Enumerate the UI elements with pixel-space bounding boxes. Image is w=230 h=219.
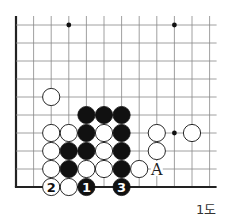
black-stone [78,106,95,123]
white-stone: 2 [43,178,60,195]
move-number-label: 1 [82,180,91,195]
white-stone [60,124,77,141]
move-number-label: 2 [47,180,56,195]
white-stone [43,88,60,105]
diagram-caption: 1도 [196,199,215,218]
white-stone [60,178,77,195]
move-number-label: 3 [117,180,126,195]
black-stone [78,124,95,141]
black-stone [113,106,130,123]
black-stone [60,160,77,177]
black-stone [113,142,130,159]
white-stone [43,142,60,159]
white-stone [148,124,165,141]
white-stone [43,160,60,177]
white-stone [131,160,148,177]
black-stone: 3 [113,178,130,195]
star-point-icon [66,23,71,28]
white-stone [183,124,200,141]
black-stone [95,106,112,123]
white-stone [95,142,112,159]
white-stone [43,124,60,141]
white-stone [95,124,112,141]
star-point-icon [172,23,177,28]
black-stone [113,160,130,177]
markers-layer: A [150,160,163,179]
black-stone: 1 [78,178,95,195]
white-stone [148,142,165,159]
go-board-diagram: 213 A [0,0,230,219]
black-stone [78,142,95,159]
white-stone [95,160,112,177]
black-stone [113,124,130,141]
white-stone [78,160,95,177]
star-point-icon [172,131,177,136]
point-marker-label: A [150,160,163,179]
black-stone [60,142,77,159]
